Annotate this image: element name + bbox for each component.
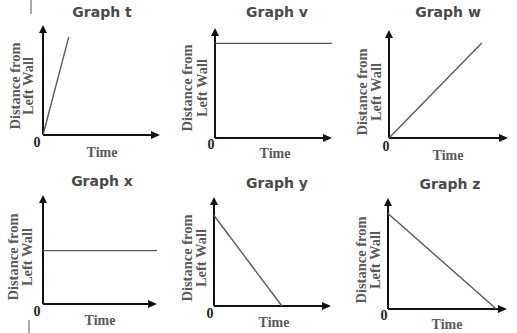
x-axis-label: Time [432, 317, 463, 332]
y-axis-label-line1: Distance from [179, 44, 195, 131]
y-axis-arrow-icon [39, 195, 47, 203]
y-axis-arrow-icon [210, 197, 218, 205]
y-axis-label-line2: Left Wall [193, 229, 209, 287]
origin-label: 0 [381, 308, 388, 323]
origin-label: 0 [207, 306, 214, 321]
x-axis-arrow-icon [499, 134, 508, 142]
origin-label: 0 [34, 135, 41, 150]
graph-v-panel: Graph v Distance from Left Wall 0 Time [179, 4, 332, 161]
graph-z-panel: Graph z Distance from Left Wall 0 Time [353, 176, 507, 332]
x-axis-arrow-icon [151, 131, 160, 139]
y-axis-label-line2: Left Wall [368, 63, 384, 121]
data-line [43, 37, 69, 135]
y-axis-arrow-icon [385, 30, 393, 38]
graph-title: Graph z [420, 176, 481, 192]
y-axis-label-line2: Left Wall [367, 231, 383, 289]
graph-t-panel: Graph t Distance from Left Wall 0 Time [7, 4, 160, 160]
origin-label: 0 [34, 304, 41, 319]
x-axis-arrow-icon [323, 134, 332, 142]
y-axis-label-line2: Left Wall [20, 57, 36, 115]
x-axis-arrow-icon [322, 302, 331, 310]
y-axis-label-line2: Left Wall [194, 59, 210, 117]
x-axis-arrow-icon [498, 305, 507, 313]
origin-label: 0 [208, 137, 215, 152]
x-axis-label: Time [433, 148, 464, 163]
graph-title: Graph x [71, 173, 133, 189]
data-line [389, 43, 482, 138]
graph-w-panel: Graph w Distance from Left Wall 0 Time [354, 4, 508, 163]
x-axis-label: Time [87, 145, 118, 160]
y-axis-arrow-icon [211, 28, 219, 36]
y-axis-arrow-icon [384, 198, 392, 206]
y-axis-label-line2: Left Wall [19, 228, 35, 286]
graph-title: Graph v [246, 4, 308, 20]
data-line [388, 214, 496, 310]
y-axis-arrow-icon [39, 25, 47, 33]
graph-title: Graph y [246, 175, 308, 191]
graphs-figure: Graph t Distance from Left Wall 0 Time G… [0, 0, 517, 333]
origin-label: 0 [383, 139, 390, 154]
x-axis-label: Time [259, 315, 290, 330]
graph-y-panel: Graph y Distance from Left Wall 0 Time [179, 175, 331, 330]
graph-title: Graph w [415, 4, 481, 20]
graph-title: Graph t [72, 4, 132, 20]
x-axis-arrow-icon [148, 300, 157, 308]
x-axis-label: Time [85, 313, 116, 328]
data-line [214, 216, 282, 307]
graph-x-panel: Graph x Distance from Left Wall 0 Time [5, 173, 157, 328]
x-axis-label: Time [260, 146, 291, 161]
